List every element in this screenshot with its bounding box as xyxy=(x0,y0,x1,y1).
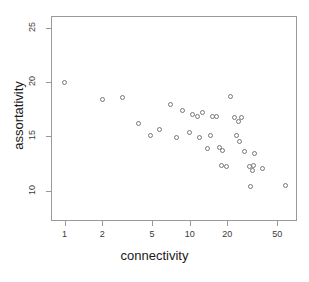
y-tick-label: 15 xyxy=(27,127,37,143)
x-tick-mark xyxy=(227,221,228,226)
y-tick-mark xyxy=(46,191,51,192)
y-axis-title: assortativity xyxy=(11,56,26,176)
plot-frame xyxy=(51,16,297,221)
x-tick-mark xyxy=(102,221,103,226)
x-tick-label: 50 xyxy=(265,229,289,239)
x-axis-title: connectivity xyxy=(0,248,309,263)
x-tick-mark xyxy=(152,221,153,226)
y-tick-label: 10 xyxy=(27,182,37,198)
x-tick-mark xyxy=(277,221,278,226)
x-tick-mark xyxy=(65,221,66,226)
x-tick-label: 1 xyxy=(53,229,77,239)
scatter-plot-figure: 10152025 125102050 connectivity assortat… xyxy=(0,0,309,282)
y-tick-mark xyxy=(46,82,51,83)
y-tick-mark xyxy=(46,28,51,29)
x-tick-label: 10 xyxy=(178,229,202,239)
x-tick-label: 20 xyxy=(215,229,239,239)
y-tick-label: 25 xyxy=(27,19,37,35)
x-tick-mark xyxy=(190,221,191,226)
x-tick-label: 2 xyxy=(90,229,114,239)
y-tick-label: 20 xyxy=(27,73,37,89)
y-tick-mark xyxy=(46,136,51,137)
x-tick-label: 5 xyxy=(140,229,164,239)
